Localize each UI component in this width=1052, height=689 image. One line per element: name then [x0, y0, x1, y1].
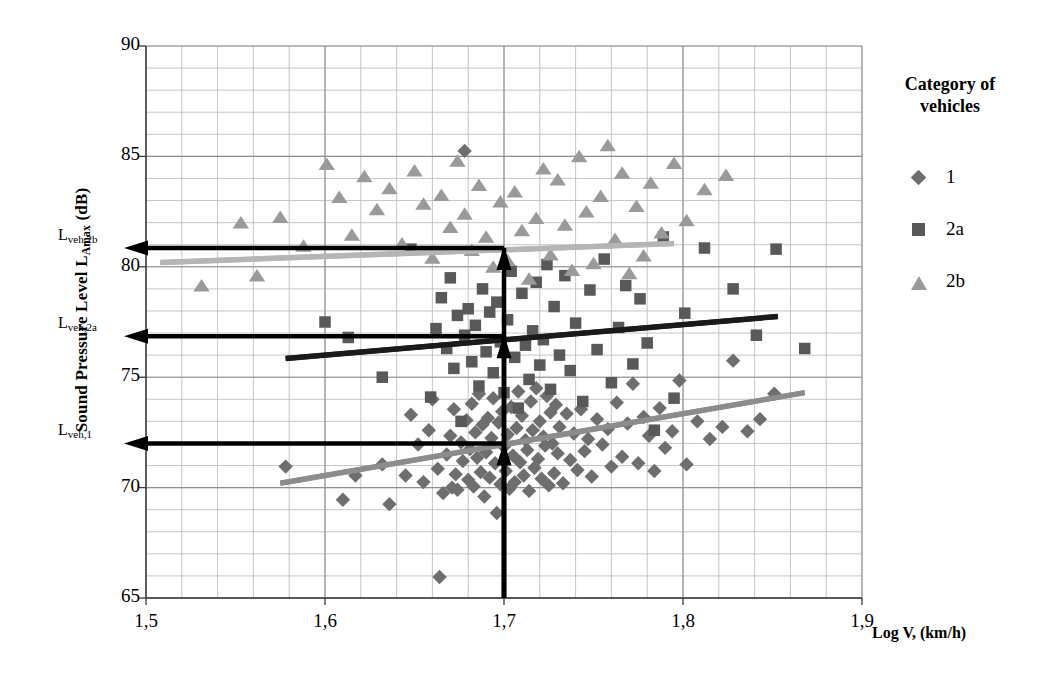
- data-point-triangle: [356, 170, 372, 183]
- data-point-diamond: [672, 373, 686, 387]
- legend-title-line1: Category of: [884, 74, 1016, 96]
- series-2b: [193, 139, 734, 292]
- data-point-triangle: [718, 169, 734, 182]
- data-point-diamond: [653, 401, 667, 415]
- data-point-triangle: [678, 214, 694, 227]
- x-axis-tick-label: 1,8: [653, 610, 713, 632]
- data-point-square: [484, 306, 496, 318]
- y-axis-tick-label: 75: [94, 364, 140, 386]
- data-point-square: [523, 374, 535, 386]
- data-point-diamond: [404, 408, 418, 422]
- data-point-diamond: [604, 459, 618, 473]
- data-point-square: [319, 316, 331, 328]
- data-point-square: [445, 272, 457, 284]
- data-point-triangle: [514, 224, 530, 237]
- data-point-diamond: [443, 429, 457, 443]
- data-point-triangle: [528, 212, 544, 225]
- data-point-diamond: [658, 441, 672, 455]
- legend-item-2b[interactable]: 2b: [884, 270, 1044, 292]
- annotation-label: Lveh,2b: [58, 226, 150, 245]
- y-axis-tick-label: 90: [94, 33, 140, 55]
- data-point-triangle: [578, 205, 594, 218]
- data-point-diamond: [382, 497, 396, 511]
- data-point-diamond: [585, 469, 599, 483]
- annotation-label-main: L: [58, 421, 68, 438]
- data-point-diamond: [631, 456, 645, 470]
- data-point-triangle: [600, 139, 616, 152]
- data-point-square: [473, 380, 485, 392]
- data-point-diamond: [559, 406, 573, 420]
- legend-square-icon: [912, 223, 925, 236]
- data-point-square: [634, 293, 646, 305]
- data-point-triangle: [331, 191, 347, 204]
- series-1: [278, 144, 781, 585]
- data-point-triangle: [272, 210, 288, 223]
- y-axis-tick-label: 65: [94, 585, 140, 607]
- legend: Category of vehicles 12a2b: [884, 74, 1044, 292]
- data-point-triangle: [621, 267, 637, 280]
- data-point-diamond: [665, 424, 679, 438]
- data-point-diamond: [595, 437, 609, 451]
- data-point-square: [377, 371, 389, 383]
- data-point-triangle: [471, 178, 487, 191]
- legend-item-1[interactable]: 1: [884, 166, 1044, 188]
- annotation-label-main: L: [58, 226, 68, 243]
- data-point-triangle: [550, 173, 566, 186]
- data-point-diamond: [524, 394, 538, 408]
- data-point-square: [668, 392, 680, 404]
- data-point-square: [620, 280, 632, 292]
- data-point-triangle: [319, 157, 335, 170]
- annotation-label: Lveh,1: [58, 421, 150, 440]
- data-point-square: [570, 317, 582, 329]
- data-point-triangle: [614, 166, 630, 179]
- data-point-diamond: [511, 384, 525, 398]
- data-point-square: [606, 377, 618, 389]
- data-point-square: [545, 384, 557, 396]
- data-point-diamond: [577, 444, 591, 458]
- data-point-triangle: [696, 183, 712, 196]
- axis-lines: [139, 46, 862, 605]
- data-point-square: [548, 301, 560, 313]
- data-point-square: [577, 396, 589, 408]
- data-point-diamond: [740, 424, 754, 438]
- data-point-triangle: [592, 189, 608, 202]
- data-point-diamond: [447, 402, 461, 416]
- data-point-triangle: [628, 199, 644, 212]
- data-point-diamond: [715, 420, 729, 434]
- legend-item-label: 2a: [946, 218, 964, 240]
- data-point-square: [455, 416, 467, 428]
- data-point-square: [699, 242, 711, 254]
- x-axis-tick-label: 1,9: [832, 610, 892, 632]
- legend-items: 12a2b: [884, 166, 1044, 292]
- data-point-diamond: [422, 423, 436, 437]
- data-point-diamond: [679, 457, 693, 471]
- data-point-square: [436, 292, 448, 304]
- data-point-square: [727, 283, 739, 295]
- data-point-square: [598, 253, 610, 265]
- data-point-square: [554, 349, 566, 361]
- legend-title-line2: vehicles: [884, 96, 1016, 118]
- data-point-diamond: [556, 476, 570, 490]
- data-point-triangle: [415, 197, 431, 210]
- data-point-square: [462, 303, 474, 315]
- data-point-square: [488, 367, 500, 379]
- data-point-diamond: [336, 493, 350, 507]
- data-point-triangle: [456, 207, 472, 220]
- legend-title: Category of vehicles: [884, 74, 1016, 118]
- data-point-square: [564, 365, 576, 377]
- annotation-label-subscript: veh,1: [68, 428, 92, 440]
- data-point-square: [541, 259, 553, 271]
- data-point-triangle: [406, 164, 422, 177]
- data-point-triangle: [381, 182, 397, 195]
- data-point-square: [477, 283, 489, 295]
- data-point-triangle: [635, 249, 651, 262]
- data-point-triangle: [478, 230, 494, 243]
- legend-item-2a[interactable]: 2a: [884, 218, 1044, 240]
- data-point-triangle: [193, 279, 209, 292]
- data-point-square: [430, 323, 442, 335]
- annotation-label-main: L: [58, 314, 68, 331]
- data-point-triangle: [564, 263, 580, 276]
- data-point-square: [513, 402, 525, 414]
- data-point-square: [491, 296, 503, 308]
- data-point-diamond: [432, 570, 446, 584]
